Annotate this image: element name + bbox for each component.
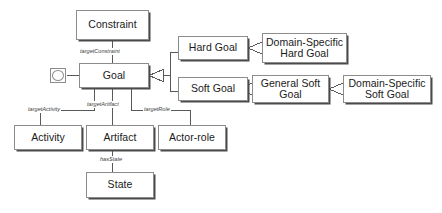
node-artifact-label: Artifact [101,132,138,144]
node-state-label: State [106,179,135,191]
diagram-canvas: Constraint Goal Hard Goal Soft Goal Doma… [0,0,442,213]
node-hard-goal[interactable]: Hard Goal [178,36,248,60]
node-activity[interactable]: Activity [14,125,82,150]
node-general-soft-goal[interactable]: General Soft Goal [252,75,329,103]
square-circle-icon [50,68,66,83]
self-reference-circle [52,70,64,81]
node-actor-role[interactable]: Actor-role [158,125,226,150]
node-activity-label: Activity [29,132,67,144]
node-soft-goal-label: Soft Goal [189,83,237,95]
generalization-arrow-to-general-soft-goal [329,83,343,95]
diagram-connectors [0,0,442,213]
node-state[interactable]: State [86,172,154,198]
generalization-arrow-to-goal [149,70,163,82]
node-artifact[interactable]: Artifact [86,125,154,150]
node-constraint[interactable]: Constraint [76,10,149,40]
edge-label-target-constraint: targetConstraint [79,48,121,55]
node-domain-specific-soft-goal[interactable]: Domain-Specific Soft Goal [343,75,431,103]
node-goal-label: Goal [101,70,127,82]
node-domain-specific-soft-goal-label: Domain-Specific Soft Goal [346,78,427,101]
edge-label-target-artifact: targetArtifact [86,101,120,108]
node-hard-goal-label: Hard Goal [187,42,239,54]
node-domain-specific-hard-goal[interactable]: Domain-Specific Hard Goal [262,33,347,63]
node-actor-role-label: Actor-role [167,132,217,144]
node-domain-specific-hard-goal-label: Domain-Specific Hard Goal [264,37,345,60]
node-constraint-label: Constraint [86,19,138,31]
edge-label-has-state: hasState [99,156,123,163]
node-goal[interactable]: Goal [79,63,149,88]
node-soft-goal[interactable]: Soft Goal [178,77,248,101]
generalization-arrow-to-hard-goal [248,42,262,54]
node-general-soft-goal-label: General Soft Goal [259,78,323,101]
edge-label-target-role: targetRole [143,106,171,113]
edge-label-target-activity: targetActivity [27,106,61,113]
